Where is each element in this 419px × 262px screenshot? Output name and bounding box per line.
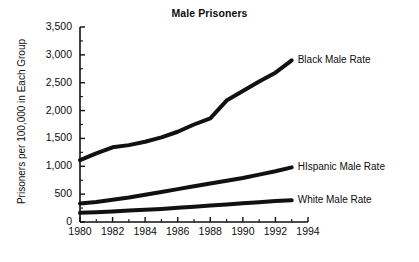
chart-container: Male Prisoners Prisoners per 100,000 in … [0, 0, 419, 262]
series-line-white-male-rate [80, 200, 292, 213]
series-line-hispanic-male-rate [80, 167, 292, 203]
plot-area [0, 0, 419, 262]
series-line-black-male-rate [80, 60, 292, 160]
series-label: Black Male Rate [298, 54, 371, 65]
series-label: White Male Rate [298, 194, 372, 205]
series-label: HIspanic Male Rate [298, 161, 385, 172]
